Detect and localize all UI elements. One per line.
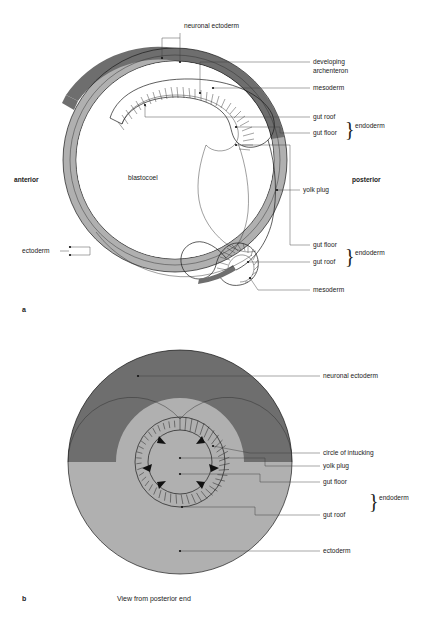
- anterior-label: anterior: [14, 176, 39, 183]
- gut-floor-bottom-label: gut floor: [313, 241, 338, 249]
- gut-floor-top-label: gut floor: [313, 129, 338, 137]
- panel-b-caption: View from posterior end: [117, 595, 191, 603]
- leader-gut-roof-bottom: [247, 261, 310, 263]
- ectoderm-label-b: ectoderm: [323, 547, 351, 554]
- gut-roof-label-b: gut roof: [323, 511, 346, 519]
- endoderm-brace-b: }: [369, 490, 379, 512]
- endoderm-top-label: endoderm: [355, 122, 385, 129]
- yolk-plug-label-b: yolk plug: [323, 462, 349, 470]
- archenteron-label: archenteron: [313, 67, 349, 74]
- yolk-plug-label-a: yolk plug: [303, 186, 329, 194]
- ectoderm-label-a: ectoderm: [22, 247, 50, 254]
- posterior-label: posterior: [352, 176, 381, 184]
- blastocoel-label: blastocoel: [128, 174, 158, 181]
- mesoderm-bottom-label: mesoderm: [313, 286, 345, 293]
- gastrulation-figure: blastocoel anterior posterior neuronal e…: [0, 0, 425, 625]
- neuronal-ectoderm-label-b: neuronal ectoderm: [323, 372, 378, 379]
- blastocoel-fill: [77, 62, 274, 259]
- panel-a: blastocoel anterior posterior neuronal e…: [14, 22, 385, 313]
- panel-b-letter: b: [22, 595, 26, 602]
- leader-mesoderm-bottom: [249, 277, 310, 290]
- gut-floor-label-b: gut floor: [323, 478, 348, 486]
- endoderm-label-b: endoderm: [379, 494, 409, 501]
- gut-roof-top-label: gut roof: [313, 113, 336, 121]
- endoderm-bottom-label: endoderm: [355, 249, 385, 256]
- circle-of-intucking-label: circle of intucking: [323, 449, 374, 457]
- gut-roof-bottom-label: gut roof: [313, 258, 336, 266]
- developing-label: developing: [313, 58, 345, 66]
- endoderm-brace-top: }: [345, 118, 355, 140]
- neuronal-ectoderm-label-a: neuronal ectoderm: [184, 22, 239, 29]
- endoderm-brace-bottom: }: [345, 245, 355, 267]
- panel-a-letter: a: [22, 306, 26, 313]
- panel-b: neuronal ectoderm circle of intucking yo…: [22, 350, 409, 603]
- mesoderm-top-label: mesoderm: [313, 84, 345, 91]
